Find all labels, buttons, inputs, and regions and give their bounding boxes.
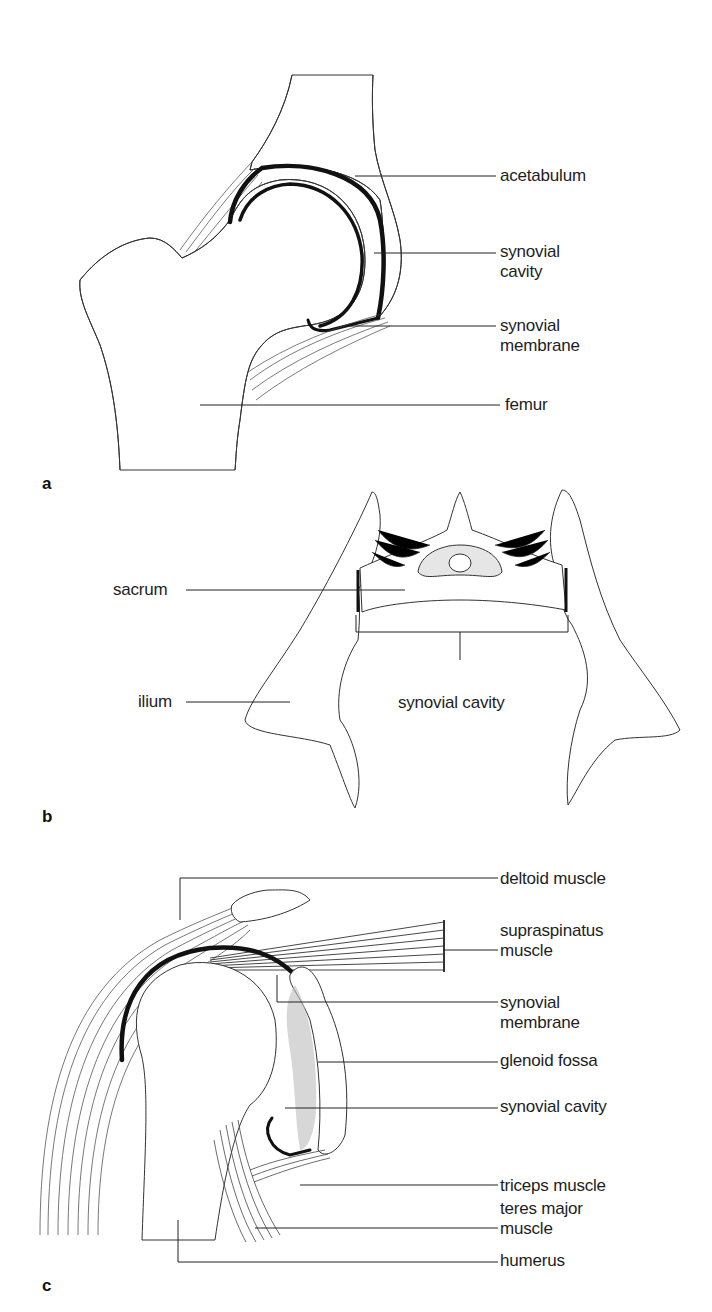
- label-synovial-cavity-a: synovial cavity: [500, 242, 560, 282]
- label-femur: femur: [505, 395, 547, 415]
- panel-b-sacroiliac-joint: sacrum ilium synovial cavity b: [0, 480, 712, 840]
- sacral-foramen: [449, 554, 471, 572]
- label-supraspinatus-muscle: supraspinatus muscle: [500, 921, 603, 961]
- label-ilium: ilium: [138, 692, 172, 712]
- leader-humerus: [178, 1220, 498, 1262]
- label-synovial-cavity-b: synovial cavity: [398, 693, 505, 713]
- label-deltoid-muscle: deltoid muscle: [500, 869, 606, 889]
- label-synovial-membrane-a: synovial membrane: [500, 316, 580, 356]
- ilium-right: [550, 490, 680, 805]
- label-synovial-membrane-c: synovial membrane: [500, 993, 580, 1033]
- bracket-synovial-cavity-b: [356, 615, 568, 632]
- label-triceps-muscle: triceps muscle: [500, 1176, 606, 1196]
- leader-deltoid: [180, 878, 498, 920]
- label-humerus: humerus: [500, 1251, 565, 1271]
- acromion-bone: [231, 890, 310, 922]
- sacroiliac-joint-illustration: [0, 480, 712, 840]
- panel-letter-c: c: [42, 1276, 51, 1296]
- humerus-bone: [136, 962, 276, 1240]
- ilium-left: [245, 492, 380, 808]
- label-sacrum: sacrum: [113, 580, 168, 600]
- label-synovial-cavity-c: synovial cavity: [500, 1097, 607, 1117]
- panel-c-shoulder-joint: deltoid muscle supraspinatus muscle syno…: [0, 840, 712, 1312]
- shoulder-joint-illustration: [0, 840, 712, 1312]
- supraspinatus-muscle: [210, 920, 444, 972]
- label-glenoid-fossa: glenoid fossa: [500, 1051, 598, 1071]
- panel-a-hip-joint: acetabulum synovial cavity synovial memb…: [0, 0, 712, 500]
- hip-joint-illustration: [0, 0, 712, 500]
- label-teres-major-muscle: teres major muscle: [500, 1199, 583, 1239]
- label-acetabulum: acetabulum: [500, 166, 586, 186]
- panel-letter-b: b: [42, 807, 52, 827]
